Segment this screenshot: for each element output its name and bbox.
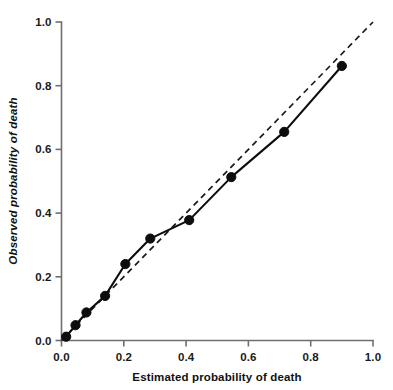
x-tick-label: 0.4 — [178, 351, 195, 363]
data-point-marker — [62, 332, 71, 341]
data-point-marker — [71, 321, 80, 330]
data-point-markers — [62, 61, 347, 341]
x-axis-tick-labels: 0.00.20.40.60.81.0 — [53, 351, 381, 363]
data-point-marker — [185, 216, 194, 225]
data-point-marker — [280, 127, 289, 136]
data-point-marker — [101, 291, 110, 300]
y-axis-title: Observed probability of death — [7, 97, 19, 264]
y-tick-label: 0.2 — [35, 271, 51, 283]
x-tick-label: 0.2 — [116, 351, 132, 363]
x-axis-tick-marks — [62, 341, 374, 347]
data-point-marker — [227, 173, 236, 182]
y-axis-tick-marks — [56, 22, 62, 341]
x-tick-label: 1.0 — [365, 351, 381, 363]
y-tick-label: 1.0 — [35, 16, 51, 28]
y-tick-label: 0.6 — [35, 143, 51, 155]
chart-canvas: 0.00.20.40.60.81.0 0.00.20.40.60.81.0 Es… — [0, 0, 393, 390]
data-point-marker — [337, 61, 346, 70]
y-tick-label: 0.4 — [35, 207, 52, 219]
x-axis-title: Estimated probability of death — [132, 371, 301, 383]
y-tick-label: 0.8 — [35, 80, 52, 92]
data-point-marker — [121, 259, 130, 268]
data-point-marker — [82, 308, 91, 317]
data-series-group — [62, 61, 347, 341]
calibration-chart-figure: 0.00.20.40.60.81.0 0.00.20.40.60.81.0 Es… — [0, 0, 393, 390]
x-tick-label: 0.6 — [240, 351, 256, 363]
y-axis-tick-labels: 0.00.20.40.60.81.0 — [35, 16, 52, 347]
data-point-marker — [146, 234, 155, 243]
y-tick-label: 0.0 — [35, 335, 51, 347]
x-tick-label: 0.8 — [303, 351, 320, 363]
x-tick-label: 0.0 — [53, 351, 69, 363]
